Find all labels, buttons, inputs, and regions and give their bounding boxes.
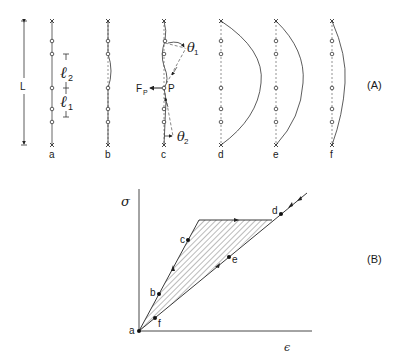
column-b-label: b bbox=[105, 149, 111, 160]
column-c: F P P θ 1 θ 2 c bbox=[136, 19, 199, 160]
dimension-L-label: L bbox=[20, 81, 26, 92]
x-axis-label: ϵ bbox=[284, 341, 290, 354]
dimension-l2-subscript: 2 bbox=[68, 73, 73, 83]
column-a: a bbox=[49, 19, 55, 160]
column-d-label: d bbox=[218, 149, 224, 160]
panel-b-chart: σ ϵ a b c d e f (B) bbox=[121, 189, 382, 354]
figure: L ℓ 2 ℓ 1 a b bbox=[0, 0, 400, 358]
y-axis-label: σ bbox=[121, 194, 131, 209]
point-c-label: c bbox=[180, 234, 185, 245]
dimension-l1-subscript: 1 bbox=[68, 102, 73, 112]
column-a-label: a bbox=[49, 149, 55, 160]
column-d: d bbox=[218, 19, 261, 160]
column-b: b bbox=[105, 19, 111, 160]
dimension-l2-label: ℓ bbox=[60, 63, 67, 82]
panel-a-label: (A) bbox=[367, 79, 382, 91]
point-f-label: f bbox=[158, 318, 161, 329]
point-a-label: a bbox=[129, 325, 135, 336]
force-subscript: P bbox=[143, 89, 148, 96]
force-label: F bbox=[136, 83, 142, 94]
dimension-l1-label: ℓ bbox=[60, 92, 67, 111]
column-e-label: e bbox=[273, 149, 279, 160]
column-f: f bbox=[330, 19, 345, 160]
point-e-label: e bbox=[232, 254, 238, 265]
theta2-subscript: 2 bbox=[184, 137, 189, 146]
point-b-label: b bbox=[150, 287, 156, 298]
panel-a: L ℓ 2 ℓ 1 a b bbox=[20, 19, 382, 160]
point-P-label: P bbox=[168, 83, 175, 94]
column-f-label: f bbox=[330, 149, 333, 160]
point-d-label: d bbox=[272, 205, 278, 216]
column-e: e bbox=[273, 19, 303, 160]
panel-b-label: (B) bbox=[367, 253, 382, 265]
column-c-label: c bbox=[161, 149, 166, 160]
theta1-subscript: 1 bbox=[194, 48, 199, 57]
